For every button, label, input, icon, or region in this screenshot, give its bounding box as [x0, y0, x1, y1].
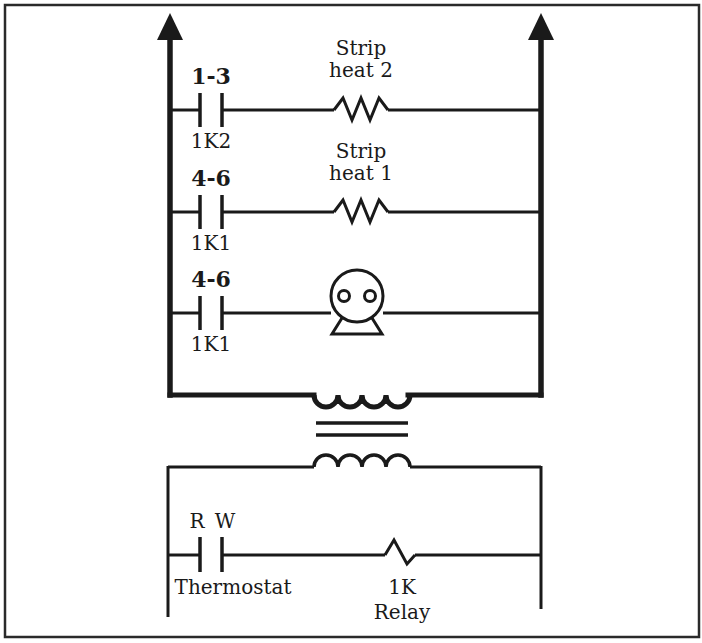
load-label-line1: Strip	[336, 139, 387, 163]
transformer-icon	[314, 395, 410, 467]
ladder-diagram: 1-3 1K2 Strip heat 2 4-6 1K1 Strip heat …	[0, 0, 702, 643]
contact-bottom-label: 1K1	[191, 231, 231, 255]
load-label-line2: heat 1	[329, 161, 393, 185]
motor-icon	[331, 270, 383, 334]
thermostat-w-label: W	[215, 509, 236, 533]
relay-label-line1: 1K	[388, 575, 417, 599]
secondary-coil	[314, 455, 410, 467]
contact-top-label: 1-3	[191, 63, 231, 89]
load-label-line1: Strip	[336, 36, 387, 60]
thermostat-r-label: R	[189, 509, 205, 533]
resistor-icon	[334, 200, 388, 222]
contact-top-label: 4-6	[191, 266, 231, 292]
contact-top-label: 4-6	[191, 165, 231, 191]
load-label-line2: heat 2	[329, 58, 393, 82]
primary-coil	[314, 395, 410, 407]
relay-label-line2: Relay	[374, 600, 431, 624]
left-arrow-up-icon	[157, 13, 183, 40]
thermostat-label: Thermostat	[175, 575, 292, 599]
rung-strip-heat-1	[170, 195, 541, 229]
resistor-icon	[334, 98, 388, 120]
contact-bottom-label: 1K2	[191, 129, 231, 153]
right-arrow-up-icon	[528, 13, 554, 40]
contact-bottom-label: 1K1	[191, 332, 231, 356]
relay-coil-icon	[385, 540, 415, 564]
rung-strip-heat-2	[170, 93, 541, 127]
